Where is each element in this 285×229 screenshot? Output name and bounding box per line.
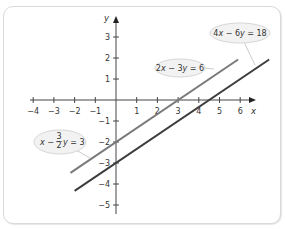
y-tick-label: 3 bbox=[105, 33, 110, 42]
fraction-denominator: 2 bbox=[56, 141, 61, 150]
y-tick-label: −4 bbox=[98, 180, 110, 189]
y-tick-label: −5 bbox=[98, 201, 110, 210]
callout-eq-2x-3y-6: 2x − 3y = 6 bbox=[155, 59, 214, 77]
x-axis-arrow-icon bbox=[249, 97, 256, 103]
x-tick-label: −1 bbox=[89, 107, 101, 116]
x-tick-label: −4 bbox=[27, 107, 39, 116]
label-eq-2x-3y-6: 2x − 3y = 6 bbox=[156, 64, 204, 73]
y-tick-label: 1 bbox=[105, 75, 110, 84]
y-tick-label: −2 bbox=[98, 138, 110, 147]
x-tick-label: 6 bbox=[238, 107, 243, 116]
label-eq3-rest: y = 3 bbox=[62, 138, 85, 147]
line-chart: −4−3−2−1123456 321−1−2−3−4−5 x y 4x − 6y… bbox=[0, 0, 285, 229]
label-eq-x-3-2y-3: x − bbox=[39, 138, 54, 147]
y-axis-arrow-icon bbox=[113, 16, 119, 23]
x-tick-label: 3 bbox=[176, 107, 181, 116]
callout-eq-4x-6y-18: 4x − 6y = 18 bbox=[210, 23, 270, 65]
y-tick-label: 2 bbox=[105, 54, 110, 63]
x-tick-label: −3 bbox=[48, 107, 60, 116]
x-axis bbox=[30, 97, 256, 103]
callout-eq-x-3-2y-3: x − 3 2 y = 3 bbox=[34, 130, 90, 158]
x-axis-label: x bbox=[250, 106, 257, 116]
fraction-numerator: 3 bbox=[56, 132, 61, 141]
x-tick-label: 1 bbox=[134, 107, 139, 116]
y-tick-label: −3 bbox=[98, 159, 110, 168]
label-eq-4x-6y-18: 4x − 6y = 18 bbox=[213, 29, 266, 38]
series-line-1 bbox=[70, 59, 238, 172]
x-tick-label: 5 bbox=[217, 107, 222, 116]
y-tick-label: −1 bbox=[98, 117, 110, 126]
y-axis-label: y bbox=[103, 13, 110, 23]
x-tick-label: −2 bbox=[69, 107, 81, 116]
